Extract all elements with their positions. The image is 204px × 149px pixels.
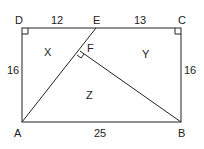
label-d: D <box>15 14 23 26</box>
length-ec: 13 <box>134 14 146 26</box>
geometry-diagram: D E C F A B 12 13 16 16 25 X Y Z <box>0 0 204 149</box>
length-ab: 25 <box>94 127 106 139</box>
label-b: B <box>178 127 185 139</box>
length-ad: 16 <box>7 64 19 76</box>
segment-fb <box>80 51 181 122</box>
label-a: A <box>14 127 22 139</box>
region-y: Y <box>142 48 150 60</box>
label-c: C <box>178 14 186 26</box>
region-z: Z <box>86 89 93 101</box>
right-angle-c-icon <box>175 28 181 34</box>
rectangle-abcd <box>22 28 181 122</box>
region-x: X <box>44 46 52 58</box>
length-bc: 16 <box>184 64 196 76</box>
length-de: 12 <box>51 14 63 26</box>
label-f: F <box>87 42 94 54</box>
segment-ae <box>22 28 96 122</box>
right-angle-f-icon <box>77 54 84 58</box>
right-angle-d-icon <box>22 28 28 34</box>
label-e: E <box>93 14 100 26</box>
